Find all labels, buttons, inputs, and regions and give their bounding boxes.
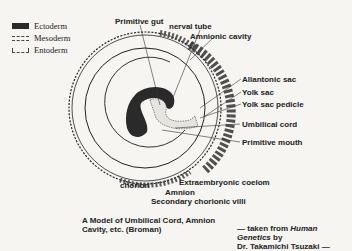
amnion-circle-icon [85, 48, 205, 168]
chorion-ring-icon [69, 32, 231, 185]
credit-line-2: Dr. Takamichi Tsuzaki — [237, 242, 352, 251]
caption-line-2: Cavity, etc. (Broman) [82, 225, 215, 234]
credit-line-1: — taken from Human Genetics by [237, 224, 352, 242]
label-chorion: chorion [120, 181, 149, 190]
label-secondary-chorionic-villi: Secondary chorionic villi [151, 197, 246, 206]
figure-caption: A Model of Umbilical Cord, Amnion Cavity… [82, 216, 215, 234]
label-yolk-sac-pedicle: Yolk sac pedicle [242, 100, 304, 109]
source-credit: — taken from Human Genetics by Dr. Takam… [237, 224, 352, 251]
label-amnion: Amnion [165, 188, 195, 197]
label-amnionic-cavity: Amnionic cavity [190, 32, 251, 41]
caption-line-1: A Model of Umbilical Cord, Amnion [82, 216, 215, 225]
label-umbilical-cord: Umbilical cord [242, 120, 297, 129]
embryo-ectoderm-icon [126, 87, 174, 137]
label-primitive-mouth: Primitive mouth [242, 138, 302, 147]
label-primitive-gut: Primitive gut [115, 17, 163, 26]
label-extraembryonic-coelom: Extraembryonic coelom [179, 178, 270, 187]
credit-suffix: by [271, 233, 283, 242]
label-allantonic-sac: Allantonic sac [242, 75, 296, 84]
credit-prefix: — taken from [237, 224, 290, 233]
label-yolk-sac: Yolk sac [242, 88, 274, 97]
label-nerval-tube: nerval tube [169, 22, 212, 31]
